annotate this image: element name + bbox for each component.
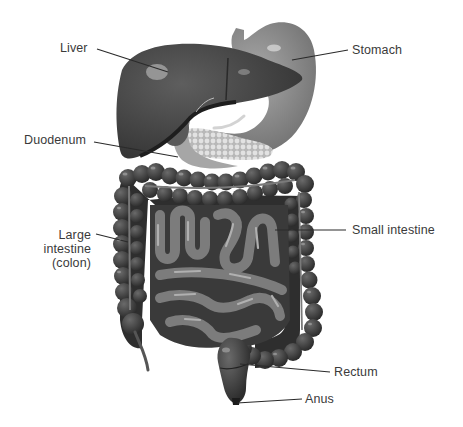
anatomy-illustration [0,0,463,427]
small-intestine-illustration [150,205,290,348]
label-small-intestine: Small intestine [352,223,435,237]
digestive-system-diagram: Liver Stomach Duodenum Large intestine (… [0,0,463,427]
label-large-intestine-line-2: intestine [30,242,91,256]
label-rectum: Rectum [334,365,378,379]
label-large-intestine-line-1: Large [30,228,91,242]
label-anus: Anus [305,392,334,406]
anus-leader-line [237,399,302,403]
label-liver: Liver [60,41,88,55]
rectum-illustration [217,338,250,405]
label-duodenum: Duodenum [24,133,86,147]
rectum-leader-line [240,364,330,372]
label-large-intestine: Large intestine (colon) [30,228,91,270]
label-large-intestine-line-3: (colon) [30,256,91,270]
label-stomach: Stomach [352,43,402,57]
